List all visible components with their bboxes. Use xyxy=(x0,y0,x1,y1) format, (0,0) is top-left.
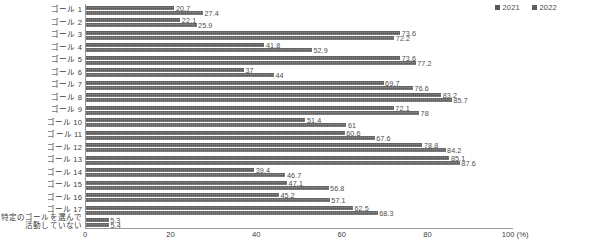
bar-2022: 27.4 xyxy=(86,11,203,15)
x-axis-tick: 100 (%) xyxy=(502,230,529,239)
bar-2022: 85.7 xyxy=(86,98,452,102)
chart-row: ゴール 222.125.9 xyxy=(86,17,513,30)
chart-row: ゴール 1051.461 xyxy=(86,117,513,130)
category-label: ゴール 1 xyxy=(51,6,82,15)
chart-row: ゴール 373.672.2 xyxy=(86,29,513,42)
bar-2021: 47.1 xyxy=(86,181,287,185)
bar-group: 45.257.1 xyxy=(86,192,513,205)
bar-group: 83.285.7 xyxy=(86,92,513,105)
bar-group: 47.156.8 xyxy=(86,179,513,192)
category-label: ゴール 7 xyxy=(51,81,82,90)
category-label: ゴール 4 xyxy=(51,44,82,53)
bar-2022: 78 xyxy=(86,111,419,115)
bar-2022: 68.3 xyxy=(86,211,378,215)
bar-2022: 76.6 xyxy=(86,86,413,90)
category-label: ゴール 15 xyxy=(47,181,82,190)
legend-label: 2022 xyxy=(540,3,558,12)
bar-2021: 73.6 xyxy=(86,56,400,60)
bar-group: 51.461 xyxy=(86,117,513,130)
x-axis-tick: 60 xyxy=(338,230,346,239)
bar-group: 73.677.2 xyxy=(86,54,513,67)
chart-row: ゴール 1439.446.7 xyxy=(86,167,513,180)
bar-group: 78.884.2 xyxy=(86,142,513,155)
bar-2021: 85.1 xyxy=(86,156,449,160)
bar-group: 41.852.9 xyxy=(86,42,513,55)
bar-2022: 46.7 xyxy=(86,173,285,177)
bar-2021: 72.1 xyxy=(86,106,394,110)
bar-group: 85.187.6 xyxy=(86,154,513,167)
category-label: ゴール 12 xyxy=(47,144,82,153)
chart-row: ゴール 883.285.7 xyxy=(86,92,513,105)
x-axis-tick: 20 xyxy=(166,230,174,239)
bar-2021: 78.8 xyxy=(86,143,422,147)
bar-group: 72.178 xyxy=(86,104,513,117)
bar-2021: 37 xyxy=(86,68,244,72)
chart-row: ゴール 1160.667.6 xyxy=(86,129,513,142)
bar-group: 39.446.7 xyxy=(86,167,513,180)
category-label: ゴール 2 xyxy=(51,19,82,28)
bar-2022: 67.6 xyxy=(86,136,375,140)
bar-group: 5.35.4 xyxy=(86,217,513,230)
chart-row: ゴール 1278.884.2 xyxy=(86,142,513,155)
legend-entry-2022: 2022 xyxy=(532,3,557,12)
chart-row: ゴール 1385.187.6 xyxy=(86,154,513,167)
bar-2021: 73.6 xyxy=(86,31,400,35)
bar-2021: 41.8 xyxy=(86,43,264,47)
bar-chart: 20212022 ゴール 120.727.4ゴール 222.125.9ゴール 3… xyxy=(0,0,599,252)
bar-2022: 77.2 xyxy=(86,61,416,65)
x-axis-tick: 40 xyxy=(252,230,260,239)
category-label: ゴール 8 xyxy=(51,94,82,103)
chart-row: ゴール 441.852.9 xyxy=(86,42,513,55)
chart-row: ゴール 769.776.6 xyxy=(86,79,513,92)
chart-row: ゴール 120.727.4 xyxy=(86,4,513,17)
category-label: ゴール 13 xyxy=(47,156,82,165)
x-axis-tick: 80 xyxy=(423,230,431,239)
bar-2022: 52.9 xyxy=(86,48,312,52)
bar-2022: 56.8 xyxy=(86,186,329,190)
bar-2021: 39.4 xyxy=(86,168,254,172)
category-label: ゴール 3 xyxy=(51,31,82,40)
category-label: ゴール 5 xyxy=(51,56,82,65)
x-axis-tick: 0 xyxy=(83,230,87,239)
bar-2021: 20.7 xyxy=(86,6,174,10)
bar-2021: 62.5 xyxy=(86,206,353,210)
category-label-line: 活動していない xyxy=(1,223,82,232)
bar-2021: 22.1 xyxy=(86,18,180,22)
plot-area: ゴール 120.727.4ゴール 222.125.9ゴール 373.672.2ゴ… xyxy=(85,4,513,229)
bar-group: 60.667.6 xyxy=(86,129,513,142)
bar-2022: 72.2 xyxy=(86,36,394,40)
category-label: ゴール 9 xyxy=(51,106,82,115)
chart-row: ゴール 1547.156.8 xyxy=(86,179,513,192)
bar-group: 20.727.4 xyxy=(86,4,513,17)
bar-group: 22.125.9 xyxy=(86,17,513,30)
category-label: ゴール 6 xyxy=(51,69,82,78)
bar-2021: 5.3 xyxy=(86,218,109,222)
chart-row: ゴール 972.178 xyxy=(86,104,513,117)
bar-group: 3744 xyxy=(86,67,513,80)
bar-group: 62.568.3 xyxy=(86,204,513,217)
category-label: ゴール 10 xyxy=(47,119,82,128)
chart-row: ゴール 1645.257.1 xyxy=(86,192,513,205)
legend-swatch-icon xyxy=(532,5,537,10)
bar-2022: 84.2 xyxy=(86,148,446,152)
chart-row: 特定のゴールを選んで活動していない5.35.4 xyxy=(86,217,513,230)
bar-2022: 5.4 xyxy=(86,223,109,227)
bar-2022: 61 xyxy=(86,123,346,127)
bar-2022: 57.1 xyxy=(86,198,330,202)
bar-2022: 87.6 xyxy=(86,161,460,165)
category-label: ゴール 16 xyxy=(47,194,82,203)
chart-row: ゴール 63744 xyxy=(86,67,513,80)
bar-2021: 83.2 xyxy=(86,93,441,97)
bar-2021: 69.7 xyxy=(86,81,384,85)
category-label: ゴール 11 xyxy=(47,131,82,140)
bar-group: 73.672.2 xyxy=(86,29,513,42)
bar-2021: 51.4 xyxy=(86,118,305,122)
bar-2021: 45.2 xyxy=(86,193,279,197)
category-label: 特定のゴールを選んで活動していない xyxy=(1,214,82,231)
x-axis: 020406080100 (%) xyxy=(85,229,513,249)
category-label: ゴール 14 xyxy=(47,169,82,178)
bar-2022: 44 xyxy=(86,73,274,77)
bar-2022: 25.9 xyxy=(86,23,197,27)
bar-group: 69.776.6 xyxy=(86,79,513,92)
chart-row: ゴール 1762.568.3 xyxy=(86,204,513,217)
